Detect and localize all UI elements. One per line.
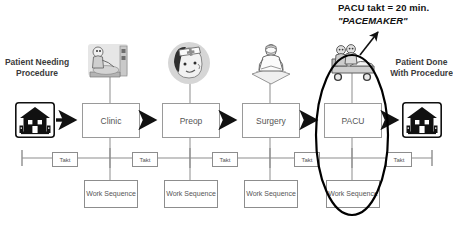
diagram-canvas: PACU takt = 20 min. "PACEMAKER" Patient …: [0, 0, 453, 230]
ellipse-highlight-icon: [0, 0, 453, 230]
